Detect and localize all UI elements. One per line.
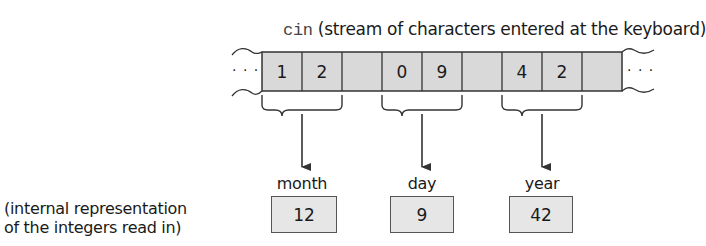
stream-cell: 4	[502, 52, 542, 91]
stream-cell: 0	[382, 52, 422, 91]
stream-cell	[342, 52, 382, 91]
var-box-month: 12	[271, 196, 337, 233]
stream-cells: 1 2 0 9 4 2	[262, 52, 622, 91]
ellipsis-right: · · ·	[627, 62, 654, 78]
stream-cell	[582, 52, 622, 91]
wave-bottom-left	[232, 90, 262, 96]
wave-top-right	[622, 49, 654, 54]
caption: (internal representation of the integers…	[4, 199, 187, 237]
stream-cell: 2	[302, 52, 342, 91]
caption-line-1: (internal representation	[4, 199, 187, 218]
var-box-year: 42	[509, 196, 573, 233]
var-label-day: day	[382, 174, 462, 193]
ellipsis-left: · · ·	[232, 62, 259, 78]
caption-line-2: of the integers read in)	[4, 218, 187, 237]
stream-cell: 2	[542, 52, 582, 91]
stream-cell: 1	[262, 52, 302, 91]
brace-day	[382, 95, 462, 116]
wave-bottom-right	[622, 88, 654, 93]
var-box-day: 9	[390, 196, 454, 233]
stream-cell: 9	[422, 52, 462, 91]
stream-cell	[462, 52, 502, 91]
brace-month	[262, 95, 342, 116]
brace-year	[502, 95, 582, 116]
var-label-year: year	[502, 174, 582, 193]
wave-top-left	[232, 49, 262, 55]
var-label-month: month	[262, 174, 342, 193]
